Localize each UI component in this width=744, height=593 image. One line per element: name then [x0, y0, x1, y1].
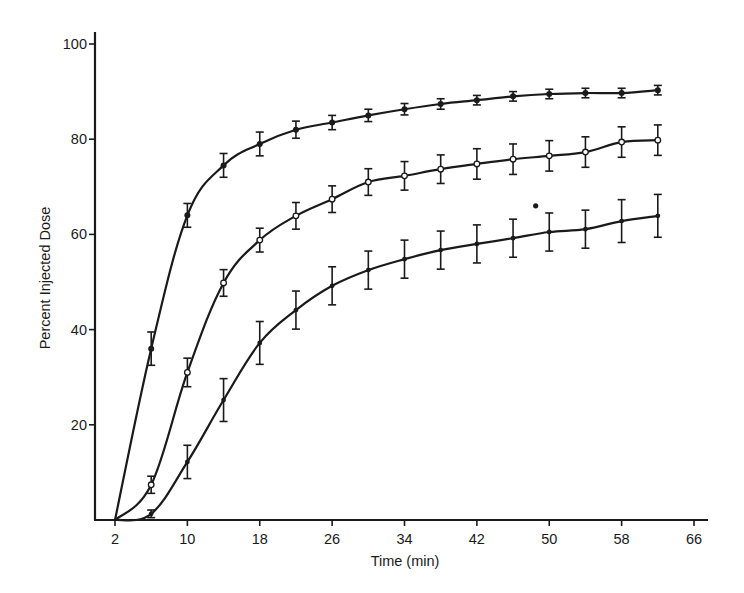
dot-marker [402, 257, 407, 262]
x-tick-label: 26 [324, 531, 340, 547]
filled-marker [655, 87, 661, 93]
open-circle-marker [583, 149, 589, 155]
open-circle-marker [510, 156, 516, 162]
y-tick-label: 40 [71, 322, 87, 338]
x-tick-label: 42 [469, 531, 485, 547]
series-line [115, 90, 658, 520]
open-circle-marker [148, 482, 154, 488]
open-circle-marker [221, 280, 227, 286]
open-circle-marker [366, 179, 372, 185]
open-circle-marker [329, 196, 335, 202]
dot-marker [655, 213, 660, 218]
dot-marker [619, 219, 624, 224]
x-tick-label: 18 [252, 531, 268, 547]
filled-marker [402, 106, 408, 112]
open-circle-marker [402, 173, 408, 179]
series-3 [115, 194, 662, 520]
dot-marker [366, 268, 371, 273]
dot-marker [438, 248, 443, 253]
series-line [115, 216, 658, 521]
filled-marker [438, 101, 444, 107]
dot-marker [330, 283, 335, 288]
filled-marker [293, 127, 299, 133]
open-circle-marker [546, 153, 552, 159]
dot-marker [547, 230, 552, 235]
open-circle-marker [185, 370, 191, 376]
x-tick-label: 10 [179, 531, 195, 547]
filled-marker [184, 212, 190, 218]
x-tick-label: 2 [111, 531, 119, 547]
filled-marker [474, 97, 480, 103]
y-tick-label: 100 [63, 36, 87, 52]
series-1 [115, 85, 662, 520]
dot-marker [474, 242, 479, 247]
open-circle-marker [619, 139, 625, 145]
open-circle-marker [655, 137, 661, 143]
x-axis-label: Time (min) [371, 553, 440, 569]
y-tick-label: 20 [71, 417, 87, 433]
dot-marker [185, 460, 190, 465]
series-layer [115, 85, 662, 520]
dot-marker [583, 227, 588, 232]
chart: 2040608010021018263442505866 Time (min) … [0, 0, 744, 593]
series-2 [115, 125, 662, 520]
filled-marker [510, 93, 516, 99]
axes: 2040608010021018263442505866 [63, 32, 708, 547]
dot-marker [511, 236, 516, 241]
stray-dot [533, 203, 538, 208]
dot-marker [221, 398, 226, 403]
x-tick-label: 58 [614, 531, 630, 547]
dot-marker [149, 511, 154, 516]
y-tick-label: 80 [71, 131, 87, 147]
y-axis-label: Percent Injected Dose [37, 207, 53, 350]
filled-marker [619, 90, 625, 96]
filled-marker [365, 112, 371, 118]
open-circle-marker [438, 166, 444, 172]
filled-marker [582, 90, 588, 96]
filled-marker [148, 346, 154, 352]
open-circle-marker [474, 161, 480, 167]
open-circle-marker [257, 237, 263, 243]
x-tick-label: 34 [396, 531, 412, 547]
x-tick-label: 66 [686, 531, 702, 547]
filled-marker [329, 120, 335, 126]
y-tick-label: 60 [71, 226, 87, 242]
dot-marker [294, 308, 299, 313]
filled-marker [257, 141, 263, 147]
open-circle-marker [293, 213, 299, 219]
filled-marker [546, 91, 552, 97]
x-tick-label: 50 [541, 531, 557, 547]
dot-marker [257, 341, 262, 346]
filled-marker [221, 162, 227, 168]
